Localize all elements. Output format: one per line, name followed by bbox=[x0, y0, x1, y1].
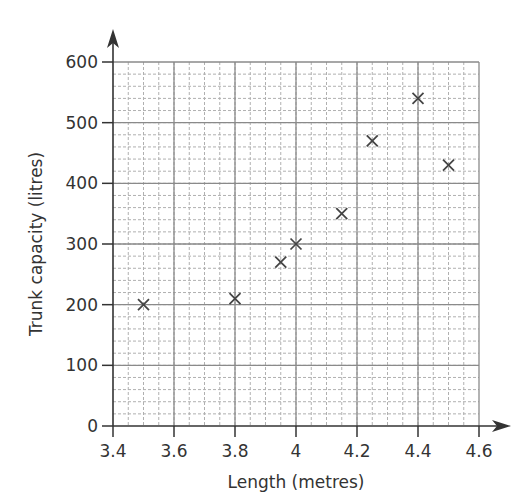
x-axis-title: Length (metres) bbox=[228, 472, 365, 492]
x-tick-label: 4.2 bbox=[343, 441, 370, 461]
x-tick-label: 3.8 bbox=[221, 441, 248, 461]
y-tick-label: 400 bbox=[66, 173, 98, 193]
y-tick-label: 0 bbox=[87, 416, 98, 436]
y-tick-label: 200 bbox=[66, 295, 98, 315]
scatter-chart: 3.43.63.844.24.44.60100200300400500600 L… bbox=[0, 0, 532, 504]
x-tick-label: 4 bbox=[291, 441, 302, 461]
y-tick-label: 500 bbox=[66, 113, 98, 133]
y-tick-label: 300 bbox=[66, 234, 98, 254]
x-tick-label: 4.4 bbox=[404, 441, 431, 461]
y-tick-label: 100 bbox=[66, 355, 98, 375]
axes bbox=[107, 29, 511, 432]
x-tick-label: 4.6 bbox=[465, 441, 492, 461]
x-tick-label: 3.4 bbox=[99, 441, 126, 461]
y-axis-title: Trunk capacity (litres) bbox=[26, 152, 46, 337]
y-tick-label: 600 bbox=[66, 52, 98, 72]
x-tick-label: 3.6 bbox=[160, 441, 187, 461]
